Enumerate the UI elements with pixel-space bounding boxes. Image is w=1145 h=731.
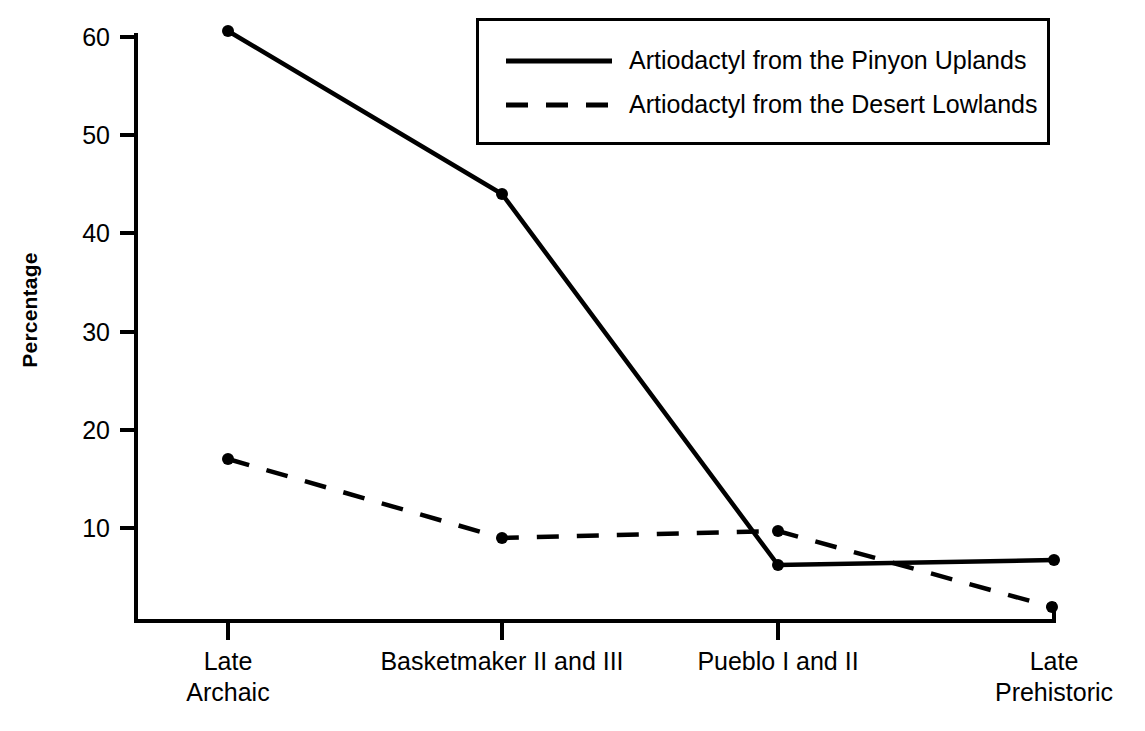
x-tick-label-late-prehistoric: Late Prehistoric [884, 646, 1145, 708]
series-line-dashed [228, 459, 1052, 607]
y-axis-ticks [120, 37, 136, 528]
y-tick-label: 40 [46, 221, 110, 246]
data-point [772, 559, 784, 571]
y-tick-label: 50 [46, 123, 110, 148]
y-tick-label: 10 [46, 516, 110, 541]
data-point [772, 525, 784, 537]
x-tick-label-line2: Prehistoric [884, 677, 1145, 708]
legend-entry-desert-lowlands: Artiodactyl from the Desert Lowlands [479, 83, 1047, 127]
data-point [496, 532, 508, 544]
data-point [1046, 601, 1058, 613]
data-point [496, 188, 508, 200]
data-point [1048, 554, 1060, 566]
data-point [222, 453, 234, 465]
y-tick-label: 60 [46, 25, 110, 50]
legend-label: Artiodactyl from the Pinyon Uplands [629, 45, 1026, 76]
x-tick-label-line2: Archaic [58, 677, 398, 708]
y-tick-label: 30 [46, 320, 110, 345]
y-tick-label: 20 [46, 418, 110, 443]
x-tick-label-line1: Late [884, 646, 1145, 677]
legend-label: Artiodactyl from the Desert Lowlands [629, 89, 1038, 120]
series-desert-lowlands [222, 453, 1058, 613]
legend-line-sample-dashed [504, 83, 614, 127]
data-point [222, 25, 234, 37]
chart-figure: Percentage 60 50 40 30 20 10 Late Archai… [0, 0, 1145, 731]
legend-entry-pinyon-uplands: Artiodactyl from the Pinyon Uplands [479, 39, 1047, 83]
legend-line-sample-solid [504, 39, 614, 83]
chart-legend: Artiodactyl from the Pinyon Uplands Arti… [476, 18, 1050, 145]
